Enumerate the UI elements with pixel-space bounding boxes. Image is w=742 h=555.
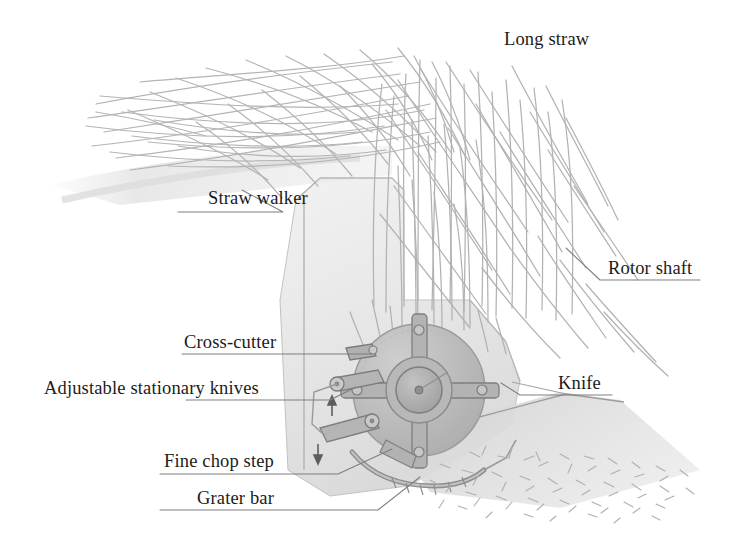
label-adjustable-stationary-knives: Adjustable stationary knives [44, 379, 259, 398]
label-grater-bar: Grater bar [197, 489, 274, 508]
label-knife: Knife [558, 374, 601, 393]
label-cross-cutter: Cross-cutter [184, 333, 276, 352]
label-straw-walker: Straw walker [208, 189, 308, 208]
straw-chopper-diagram: Long straw Straw walker Rotor shaft Cros… [0, 0, 742, 555]
label-long-straw: Long straw [504, 30, 589, 49]
label-rotor-shaft: Rotor shaft [608, 259, 692, 278]
label-fine-chop-step: Fine chop step [164, 452, 274, 471]
